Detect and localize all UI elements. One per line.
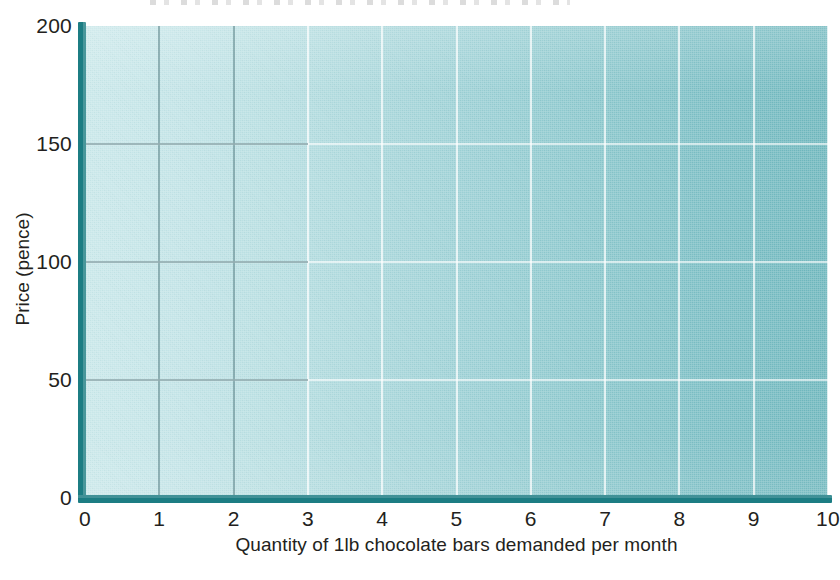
gridline-dark-segment [85, 143, 308, 145]
y-axis-tick-label: 200 [18, 15, 72, 36]
gridline-dark-segment [85, 379, 308, 381]
y-axis-tick-label: 50 [18, 369, 72, 390]
plot-area[interactable] [85, 26, 828, 498]
x-axis-tick-label: 2 [204, 508, 264, 529]
gridline-dark-segment [85, 261, 308, 263]
x-axis-line [78, 495, 832, 503]
x-axis-tick-label: 1 [129, 508, 189, 529]
horizontal-gridline [85, 379, 828, 381]
horizontal-gridline [85, 143, 828, 145]
x-axis-tick-label: 4 [352, 508, 412, 529]
y-axis-tick-label: 0 [18, 487, 72, 508]
x-axis-tick-label: 6 [501, 508, 561, 529]
y-axis-tick-label: 150 [18, 133, 72, 154]
cropped-text-artifact [150, 0, 570, 5]
x-axis-tick-label: 5 [427, 508, 487, 529]
x-axis-tick-label: 8 [649, 508, 709, 529]
x-axis-tick-label: 10 [798, 508, 840, 529]
x-axis-tick-label: 9 [724, 508, 784, 529]
y-axis-line [78, 22, 86, 502]
x-axis-title: Quantity of 1lb chocolate bars demanded … [85, 534, 828, 556]
x-axis-tick-label: 0 [55, 508, 115, 529]
x-axis-tick-label: 7 [575, 508, 635, 529]
horizontal-gridline [85, 261, 828, 263]
y-axis-title: Price (pence) [12, 184, 34, 354]
figure: 050100150200 012345678910 Price (pence) … [0, 0, 840, 580]
x-axis-tick-label: 3 [278, 508, 338, 529]
